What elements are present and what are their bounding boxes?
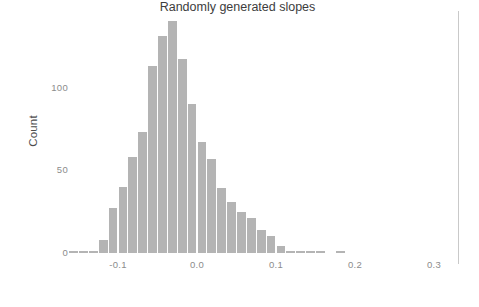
histogram-figure: Count 050100 Randomly generated slopes -… — [0, 0, 479, 307]
histogram-bar — [158, 36, 167, 253]
histogram-bar — [148, 66, 157, 253]
histogram-bar — [247, 218, 256, 253]
histogram-bar — [168, 21, 177, 253]
x-tick-label--0-1: -0.1 — [88, 259, 148, 270]
histogram-bar — [99, 240, 108, 253]
histogram-bar — [138, 132, 147, 253]
histogram-bar — [267, 236, 276, 253]
histogram-bar — [257, 230, 266, 253]
histogram-bar — [207, 159, 216, 253]
histogram-bar — [198, 142, 207, 253]
histogram-bar — [89, 251, 98, 253]
histogram-bar — [188, 104, 197, 253]
histogram-bar — [178, 59, 187, 253]
histogram-bar — [306, 251, 315, 253]
histogram-bar — [336, 251, 345, 253]
x-tick-label-0-1: 0.1 — [246, 259, 306, 270]
histogram-bar — [217, 188, 226, 253]
histogram-bar — [227, 202, 236, 253]
x-tick-label-0-0: 0.0 — [167, 259, 227, 270]
histogram-bar — [296, 251, 305, 253]
histogram-bar — [286, 251, 295, 253]
plot-area: Count 050100 Randomly generated slopes -… — [0, 0, 479, 307]
right-edge-rule — [458, 11, 459, 264]
histogram-bar — [69, 251, 78, 253]
histogram-bar — [237, 212, 246, 253]
x-tick-label-0-2: 0.2 — [325, 259, 385, 270]
histogram-bar — [119, 187, 128, 253]
histogram-bar — [109, 208, 118, 253]
x-tick-label-0-3: 0.3 — [404, 259, 464, 270]
histogram-bar — [128, 157, 137, 253]
histogram-bar — [316, 251, 325, 253]
histogram-bar — [79, 251, 88, 253]
histogram-bar — [277, 246, 286, 253]
